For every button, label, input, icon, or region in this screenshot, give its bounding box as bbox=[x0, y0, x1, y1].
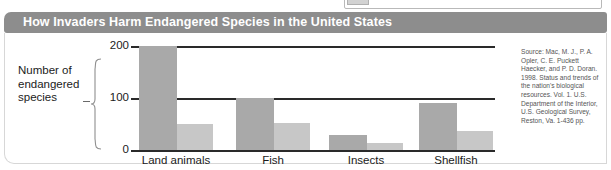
bar-insects-primary[interactable] bbox=[329, 135, 367, 150]
bar-insects-secondary[interactable] bbox=[367, 143, 403, 150]
y-tick-label-200: 200 bbox=[103, 39, 129, 51]
x-tick-label-insects: Insects bbox=[329, 154, 403, 166]
chart-title-bar: How Invaders Harm Endangered Species in … bbox=[4, 12, 607, 33]
axis-baseline bbox=[131, 150, 495, 152]
x-tick-label-land-animals: Land animals bbox=[139, 154, 213, 166]
axis-brace-icon bbox=[90, 58, 102, 150]
partial-panel-tab[interactable] bbox=[347, 0, 369, 5]
x-tick-label-fish: Fish bbox=[236, 154, 310, 166]
y-tick-label-0: 0 bbox=[103, 143, 129, 155]
y-axis-label-dash bbox=[83, 101, 90, 102]
bar-fish-secondary[interactable] bbox=[274, 123, 310, 150]
plot-area: 200 100 0 L bbox=[103, 46, 495, 158]
bar-shellfish-secondary[interactable] bbox=[457, 131, 493, 150]
bar-land-animals-secondary[interactable] bbox=[177, 124, 213, 150]
bar-shellfish-primary[interactable] bbox=[419, 103, 457, 150]
bar-land-animals-primary[interactable] bbox=[139, 46, 177, 150]
bar-groups bbox=[131, 46, 495, 150]
partial-panel-fragment[interactable] bbox=[344, 0, 602, 9]
bar-fish-primary[interactable] bbox=[236, 98, 274, 150]
tick-mark-0 bbox=[133, 150, 144, 152]
bar-group-fish bbox=[236, 46, 310, 150]
bar-group-shellfish bbox=[419, 46, 493, 150]
x-tick-label-shellfish: Shellfish bbox=[419, 154, 493, 166]
y-tick-label-100: 100 bbox=[103, 91, 129, 103]
bar-group-insects bbox=[329, 46, 403, 150]
bar-group-land-animals bbox=[139, 46, 213, 150]
chart-title: How Invaders Harm Endangered Species in … bbox=[23, 15, 392, 29]
chart-figure: How Invaders Harm Endangered Species in … bbox=[4, 12, 607, 164]
source-citation: Source: Mac, M. J., P. A. Opler, C. E. P… bbox=[521, 48, 599, 125]
